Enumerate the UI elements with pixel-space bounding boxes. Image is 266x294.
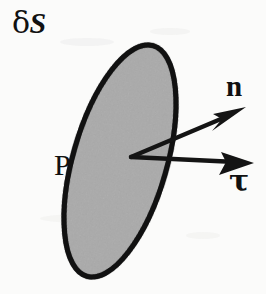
- delta-glyph: δ: [12, 5, 30, 40]
- s-glyph: S: [30, 6, 46, 39]
- tangent-vector-label-tau: τ: [229, 166, 249, 196]
- normal-vector-label-n: n: [226, 72, 242, 101]
- point-label-p: P: [54, 150, 71, 180]
- surface-element-label: δS: [12, 8, 46, 38]
- figure-canvas: δS P n τ: [0, 0, 266, 294]
- diagram-svg: [0, 0, 266, 294]
